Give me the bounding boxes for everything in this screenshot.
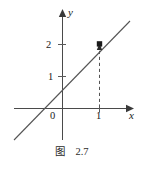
y-axis-arrow-icon: [59, 9, 66, 17]
y-tick-label-2: 2: [46, 40, 51, 51]
x-axis-label: x: [129, 110, 134, 121]
dashed-drop-line: [97, 44, 102, 109]
plot-svg: [0, 0, 144, 146]
plot-line-series: [14, 21, 130, 140]
y-tick-label-1: 1: [48, 72, 53, 83]
y-axis: [59, 9, 66, 140]
data-point-marker: [97, 41, 102, 46]
x-tick-label-1: 1: [96, 111, 101, 122]
x-axis: [14, 105, 134, 112]
y-axis-label: y: [68, 7, 73, 18]
plot-area: y x 2 1 0 1: [0, 0, 144, 146]
figure-caption: 图2.7: [0, 146, 144, 159]
figure-caption-number: 2.7: [75, 146, 88, 157]
figure-caption-prefix: 图: [55, 146, 65, 157]
figure-container: y x 2 1 0 1 图2.7: [0, 0, 144, 171]
origin-label: 0: [50, 111, 55, 122]
